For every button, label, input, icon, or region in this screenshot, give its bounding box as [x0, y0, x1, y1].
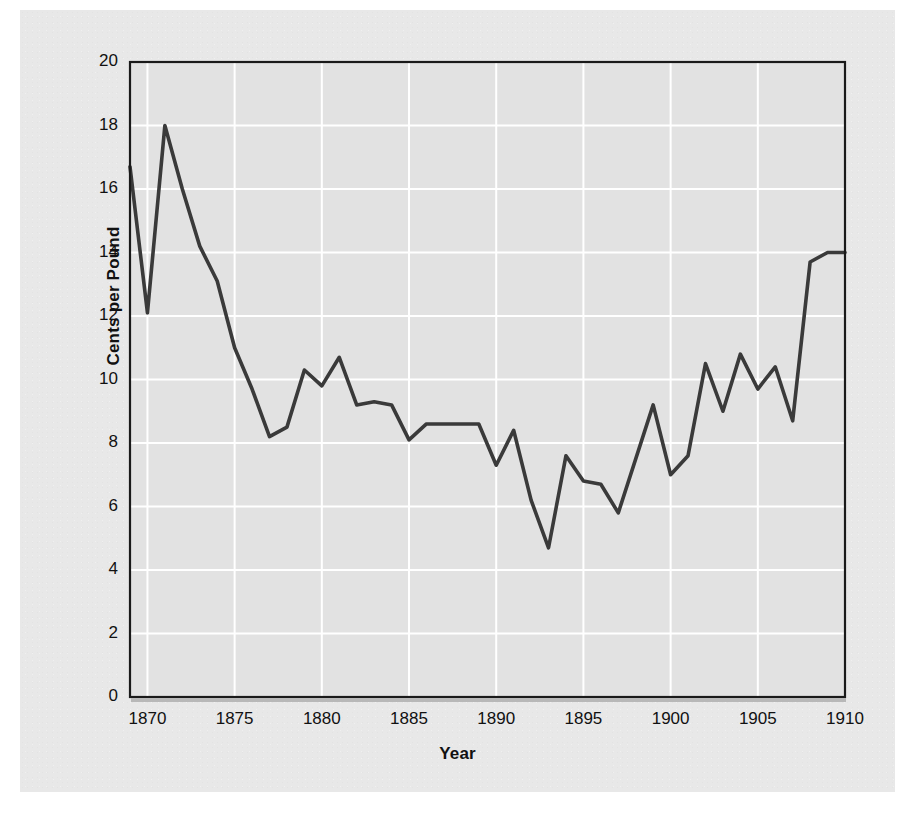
x-tick-label: 1870 — [112, 709, 182, 729]
x-tick-label: 1885 — [374, 709, 444, 729]
y-tick-label: 18 — [74, 115, 118, 135]
y-tick-label: 6 — [74, 496, 118, 516]
x-tick-label: 1905 — [723, 709, 793, 729]
y-tick-label: 4 — [74, 559, 118, 579]
y-tick-label: 12 — [74, 305, 118, 325]
x-tick-label: 1880 — [287, 709, 357, 729]
y-tick-label: 20 — [74, 51, 118, 71]
x-tick-label: 1910 — [810, 709, 880, 729]
x-tick-label: 1895 — [548, 709, 618, 729]
y-tick-label: 16 — [74, 178, 118, 198]
y-tick-label: 14 — [74, 242, 118, 262]
x-axis-title: Year — [0, 744, 915, 764]
x-tick-label: 1900 — [636, 709, 706, 729]
chart-area: Cents per Pound Year 02468101214161820 1… — [0, 0, 915, 813]
y-tick-label: 8 — [74, 432, 118, 452]
line-chart-plot — [0, 0, 915, 813]
chart-page: Cents per Pound Year 02468101214161820 1… — [0, 0, 915, 813]
x-tick-label: 1890 — [461, 709, 531, 729]
y-tick-label: 10 — [74, 369, 118, 389]
y-tick-label: 0 — [74, 686, 118, 706]
y-tick-label: 2 — [74, 623, 118, 643]
x-tick-label: 1875 — [200, 709, 270, 729]
